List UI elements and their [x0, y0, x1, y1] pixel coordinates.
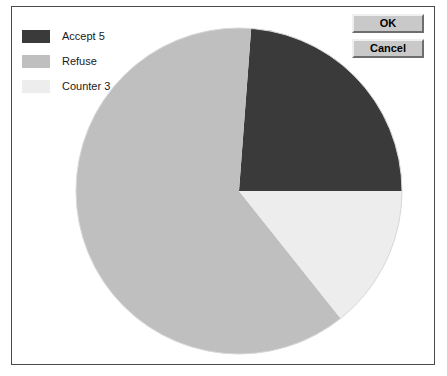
legend-item-refuse[interactable]: Refuse: [22, 53, 137, 70]
cancel-button[interactable]: Cancel: [352, 39, 424, 58]
legend-item-accept[interactable]: Accept 5: [22, 28, 137, 45]
legend: Accept 5 Refuse Counter 3: [22, 28, 137, 103]
legend-swatch-counter: [22, 80, 50, 93]
legend-label-counter: Counter 3: [62, 80, 110, 93]
ok-button[interactable]: OK: [352, 14, 424, 33]
legend-label-accept: Accept 5: [62, 30, 105, 43]
legend-label-refuse: Refuse: [62, 55, 97, 68]
legend-swatch-accept: [22, 30, 50, 43]
button-panel: OK Cancel: [352, 14, 426, 64]
legend-swatch-refuse: [22, 55, 50, 68]
legend-item-counter[interactable]: Counter 3: [22, 78, 137, 95]
pie-chart-dialog: Accept 5 Refuse Counter 3 OK Cancel: [11, 6, 435, 365]
